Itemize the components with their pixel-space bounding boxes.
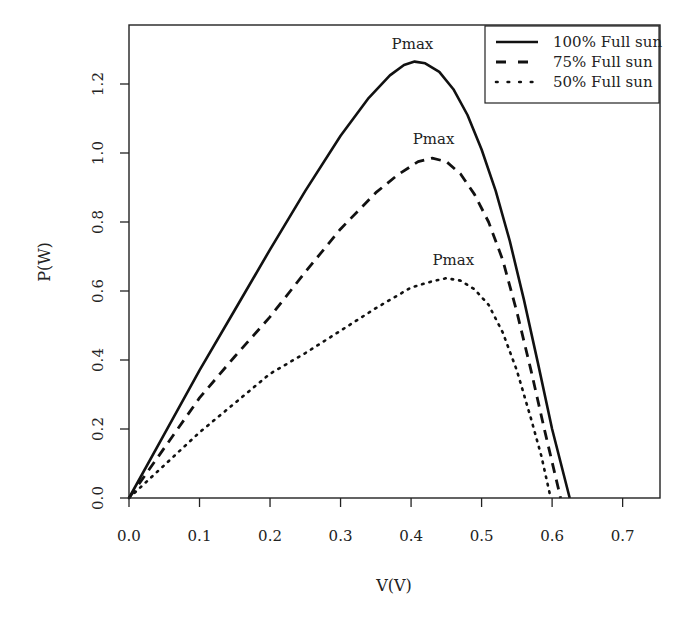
- pmax-label: Pmax: [433, 251, 475, 269]
- x-tick-label: 0.2: [258, 527, 282, 545]
- y-tick-label: 0.2: [89, 417, 107, 441]
- legend-label: 100% Full sun: [553, 33, 662, 51]
- x-tick-label: 0.3: [329, 527, 353, 545]
- plot-series-group: [129, 62, 570, 498]
- x-axis-label: V(V): [375, 576, 412, 595]
- legend: 100% Full sun75% Full sun50% Full sun: [485, 26, 662, 103]
- x-axis: 0.00.10.20.30.40.50.60.7: [117, 498, 634, 545]
- series-line-solid: [129, 62, 570, 498]
- x-tick-label: 0.4: [399, 527, 423, 545]
- y-axis-label: P(W): [35, 242, 54, 282]
- x-tick-label: 0.1: [188, 527, 212, 545]
- y-axis: 0.00.20.40.60.81.01.2: [89, 72, 129, 510]
- x-tick-label: 0.0: [117, 527, 141, 545]
- x-tick-label: 0.5: [470, 527, 494, 545]
- pmax-label: Pmax: [413, 130, 455, 148]
- y-tick-label: 0.8: [89, 210, 107, 234]
- pv-power-voltage-chart: 0.00.10.20.30.40.50.60.7 0.00.20.40.60.8…: [0, 0, 691, 626]
- y-tick-label: 1.0: [89, 141, 107, 165]
- x-tick-label: 0.6: [540, 527, 564, 545]
- y-tick-label: 0.0: [89, 486, 107, 510]
- legend-label: 50% Full sun: [553, 73, 653, 91]
- y-tick-label: 0.6: [89, 279, 107, 303]
- pmax-label: Pmax: [392, 35, 434, 53]
- y-tick-label: 0.4: [89, 348, 107, 372]
- series-line-dotted: [129, 278, 551, 498]
- pmax-annotations: PmaxPmaxPmax: [392, 35, 475, 269]
- x-tick-label: 0.7: [611, 527, 635, 545]
- y-tick-label: 1.2: [89, 72, 107, 96]
- legend-label: 75% Full sun: [553, 53, 653, 71]
